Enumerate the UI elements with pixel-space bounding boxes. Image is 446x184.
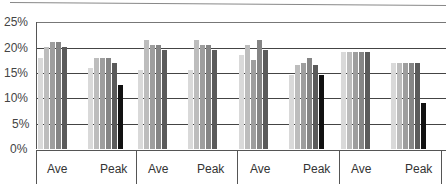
bar — [118, 85, 123, 149]
bar — [415, 63, 420, 149]
bar — [257, 40, 262, 149]
bar — [289, 75, 294, 149]
bar — [263, 50, 268, 149]
bar — [239, 55, 244, 149]
bar — [359, 52, 364, 149]
bar — [144, 40, 149, 149]
top-rule — [10, 2, 446, 6]
bar — [251, 60, 256, 149]
bar — [50, 42, 55, 149]
y-tick-25: 25% — [4, 15, 34, 29]
x-axis-band — [36, 150, 446, 184]
group-separator — [441, 150, 442, 184]
bar — [106, 58, 111, 149]
plot-area — [36, 22, 446, 149]
gridline-20 — [36, 48, 446, 49]
y-tick-10: 10% — [4, 91, 34, 105]
bar — [162, 50, 167, 149]
bar — [301, 63, 306, 149]
group-separator — [136, 150, 137, 184]
bar — [403, 63, 408, 149]
bar — [365, 52, 370, 149]
y-tick-15: 15% — [4, 66, 34, 80]
bar — [397, 63, 402, 149]
bar — [200, 45, 205, 149]
bar — [313, 65, 318, 149]
x-label-peak: Peak — [197, 162, 224, 176]
bar — [245, 45, 250, 149]
bar — [100, 58, 105, 149]
bar — [295, 65, 300, 149]
bar — [150, 45, 155, 149]
group-separator — [237, 150, 238, 184]
bar — [94, 58, 99, 149]
bar — [88, 68, 93, 149]
bar — [138, 70, 143, 149]
bar — [38, 58, 43, 149]
y-axis-line — [36, 22, 37, 149]
bar — [307, 58, 312, 149]
bar — [194, 40, 199, 149]
bar — [421, 103, 426, 149]
x-label-ave: Ave — [250, 162, 270, 176]
bar — [206, 45, 211, 149]
bar — [188, 70, 193, 149]
bar — [44, 47, 49, 149]
bar — [212, 50, 217, 149]
x-label-ave: Ave — [47, 162, 67, 176]
bar — [347, 52, 352, 149]
bar — [156, 45, 161, 149]
group-separator — [36, 150, 37, 184]
bar — [341, 52, 346, 149]
y-tick-20: 20% — [4, 41, 34, 55]
bar — [409, 63, 414, 149]
bar — [62, 47, 67, 149]
bar — [391, 63, 396, 149]
bar — [353, 52, 358, 149]
bar — [56, 42, 61, 149]
gridline-25 — [36, 22, 446, 23]
x-label-peak: Peak — [100, 162, 127, 176]
x-label-peak: Peak — [405, 162, 432, 176]
bar — [319, 75, 324, 149]
x-label-peak: Peak — [303, 162, 330, 176]
x-label-ave: Ave — [148, 162, 168, 176]
bar — [112, 63, 117, 149]
group-separator — [339, 150, 340, 184]
x-label-ave: Ave — [351, 162, 371, 176]
